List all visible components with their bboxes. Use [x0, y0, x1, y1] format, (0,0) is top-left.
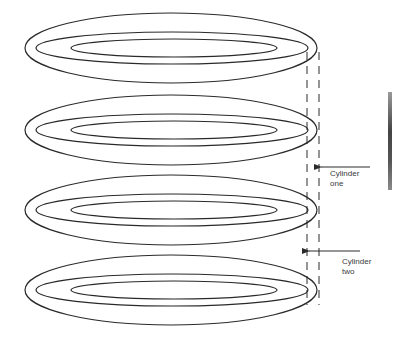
inner-track — [71, 201, 277, 219]
platter-1 — [25, 13, 317, 83]
inner-track — [71, 281, 277, 299]
platter-2 — [25, 95, 317, 165]
outer-track — [25, 95, 317, 165]
middle-track — [36, 274, 308, 306]
edge-bar — [388, 92, 392, 190]
cylinder-one-label-line2: one — [330, 179, 359, 189]
outer-track — [25, 255, 317, 325]
middle-track — [36, 114, 308, 146]
platter-stack — [25, 13, 317, 325]
middle-track — [36, 32, 308, 64]
inner-track — [71, 121, 277, 139]
outer-track — [25, 13, 317, 83]
cylinder-two-label-line1: Cylinder — [342, 257, 371, 267]
platter-4 — [25, 255, 317, 325]
inner-track — [71, 39, 277, 57]
platter-3 — [25, 175, 317, 245]
cylinder-two-label: Cylinder two — [342, 257, 371, 277]
cylinder-one-label: Cylinder one — [330, 169, 359, 189]
cylinder-two-label-line2: two — [342, 267, 371, 277]
middle-track — [36, 194, 308, 226]
cylinder-lines — [307, 52, 319, 305]
outer-track — [25, 175, 317, 245]
cylinder-one-label-line1: Cylinder — [330, 169, 359, 179]
